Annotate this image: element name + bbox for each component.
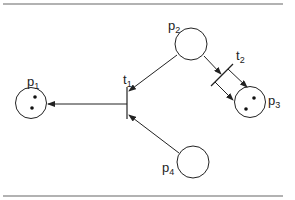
place-p3: p3 — [235, 87, 281, 118]
svg-text:p3: p3 — [268, 93, 280, 110]
transition-t1: t1 — [123, 72, 132, 119]
token — [33, 95, 37, 99]
place-p3-label: p — [268, 93, 275, 108]
place-p1-label: p — [27, 74, 34, 89]
arc-p2-t2 — [204, 56, 221, 74]
place-p1: p1 — [16, 74, 47, 119]
svg-text:t2: t2 — [236, 48, 245, 65]
svg-text:p4: p4 — [162, 160, 174, 177]
place-p2: p2 — [168, 18, 207, 60]
arc-p2-t1 — [129, 55, 177, 91]
arc-t2-p3-a — [228, 69, 247, 87]
place-p4: p4 — [162, 146, 209, 178]
place-p2-label: p — [168, 18, 175, 33]
arc-t2-p3-b — [215, 82, 233, 100]
token — [252, 96, 256, 100]
petri-net-diagram: p1 p2 p3 p4 t1 t2 — [0, 0, 295, 200]
arc-p4-t1 — [129, 115, 179, 153]
place-p4-label: p — [162, 160, 169, 175]
svg-text:p1: p1 — [27, 74, 39, 91]
diagram-svg: p1 p2 p3 p4 t1 t2 — [0, 0, 295, 200]
token — [30, 106, 34, 110]
token — [244, 107, 248, 111]
svg-text:t1: t1 — [123, 72, 132, 89]
svg-text:p2: p2 — [168, 18, 180, 35]
